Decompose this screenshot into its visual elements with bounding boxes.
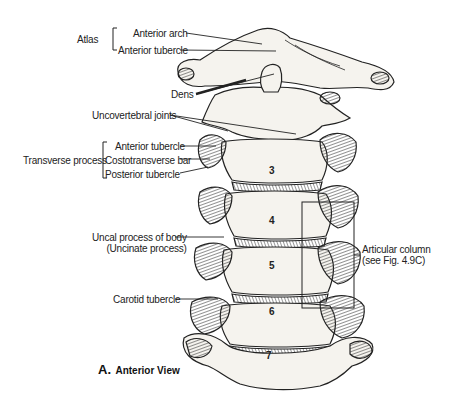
cervical-spine-illustration: [0, 0, 451, 400]
label-atlas: Atlas: [77, 34, 98, 45]
caption-text: Anterior View: [115, 365, 179, 376]
label-costotransverse-bar: Costotransverse bar: [105, 155, 191, 166]
vertebra-number-c5: 5: [269, 260, 275, 271]
label-articular-column-line2: (see Fig. 4.9C): [362, 255, 431, 266]
vertebra-number-c7: 7: [266, 350, 272, 361]
figure-caption: A. Anterior View: [98, 360, 180, 378]
label-uncal-process: Uncal process of body (Uncinate process): [92, 232, 187, 254]
label-articular-column: Articular column (see Fig. 4.9C): [362, 244, 431, 266]
label-uncovertebral-joints: Uncovertebral joints: [92, 110, 176, 121]
vertebra-number-c4: 4: [269, 215, 275, 226]
c5-vertebra: [194, 242, 360, 304]
label-posterior-tubercle: Posterior tubercle: [105, 169, 180, 180]
atlas-vertebra: [178, 28, 394, 89]
label-carotid-tubercle: Carotid tubercle: [113, 294, 180, 305]
caption-letter: A.: [98, 362, 111, 377]
vertebra-number-c3: 3: [269, 165, 275, 176]
label-dens: Dens: [171, 89, 194, 100]
vertebra-number-c6: 6: [269, 306, 275, 317]
label-anterior-tubercle-tp: Anterior tubercle: [115, 141, 185, 152]
label-transverse-process: Transverse process: [23, 155, 107, 166]
label-anterior-tubercle-atlas: Anterior tubercle: [118, 45, 188, 56]
label-uncal-process-line2: (Uncinate process): [92, 243, 187, 254]
label-uncal-process-line1: Uncal process of body: [92, 232, 187, 243]
label-articular-column-line1: Articular column: [362, 244, 431, 255]
c4-vertebra: [198, 186, 358, 248]
c3-vertebra: [198, 133, 356, 191]
label-anterior-arch: Anterior arch: [133, 28, 188, 39]
